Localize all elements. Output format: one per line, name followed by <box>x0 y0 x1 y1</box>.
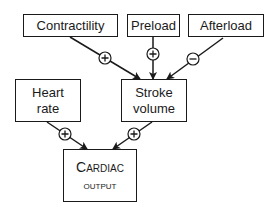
node-label-line2: rate <box>37 101 59 117</box>
plus-sign-icon <box>147 48 159 60</box>
node-label-line1: Heart <box>32 85 64 101</box>
node-label-line1: Cardiac <box>76 158 124 176</box>
node-label: Preload <box>131 18 176 34</box>
node-label-line2: volume <box>133 101 175 117</box>
node-afterload: Afterload <box>188 14 264 37</box>
plus-sign-icon <box>128 128 140 140</box>
node-label-line1: Stroke <box>135 85 173 101</box>
node-label-line2: output <box>84 176 117 194</box>
node-label: Afterload <box>200 18 252 34</box>
node-label: Contractility <box>37 18 105 34</box>
plus-sign-icon <box>59 128 71 140</box>
plus-sign-icon <box>99 52 111 64</box>
minus-sign-icon <box>187 53 199 65</box>
node-contractility: Contractility <box>23 14 118 37</box>
node-heart-rate: Heart rate <box>15 79 81 122</box>
node-stroke-volume: Stroke volume <box>121 79 187 122</box>
node-cardiac-output: Cardiac output <box>63 149 137 202</box>
node-preload: Preload <box>127 14 180 37</box>
